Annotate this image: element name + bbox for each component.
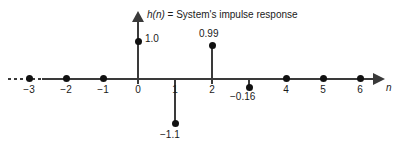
stem-marker: [246, 84, 253, 91]
tick-label: −3: [9, 84, 49, 96]
x-axis-label: n: [386, 82, 392, 94]
tick-label: 2: [192, 84, 232, 96]
stem-marker: [135, 38, 142, 45]
stem-marker: [100, 75, 107, 82]
stem-marker: [172, 120, 179, 127]
stem-marker: [320, 75, 327, 82]
value-label-n0: 1.0: [145, 33, 159, 45]
value-label-n1: −1.1: [160, 129, 180, 141]
stem-marker: [63, 75, 70, 82]
stem-marker: [283, 75, 290, 82]
tick-label: 4: [266, 84, 306, 96]
stem-line: [211, 45, 213, 79]
tick-label: −1: [83, 84, 123, 96]
tick-label: 5: [303, 84, 343, 96]
plot-title: h(n) = System's impulse response: [147, 9, 298, 21]
plot-title-function: h(n): [147, 9, 165, 20]
stem-line: [137, 41, 139, 79]
value-label-n2: 0.99: [199, 28, 218, 40]
tick-label: 1: [155, 84, 195, 96]
stem-marker: [357, 75, 364, 82]
y-axis-arrow-icon: [132, 11, 144, 22]
tick-label: −2: [46, 84, 86, 96]
value-label-n3: −0.16: [230, 91, 255, 103]
impulse-response-stem-plot: h(n) = System's impulse response n −3 −2…: [0, 0, 398, 145]
plot-title-description: = System's impulse response: [165, 9, 298, 20]
stem-marker: [26, 75, 33, 82]
tick-label: 6: [340, 84, 380, 96]
stem-marker: [209, 42, 216, 49]
tick-label: 0: [118, 84, 158, 96]
